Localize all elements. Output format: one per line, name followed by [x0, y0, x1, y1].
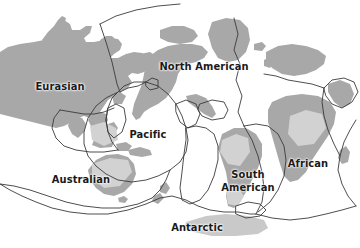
tectonic-plates-map: Eurasian North American Pacific Australi… [0, 0, 360, 248]
map-canvas [0, 0, 360, 248]
